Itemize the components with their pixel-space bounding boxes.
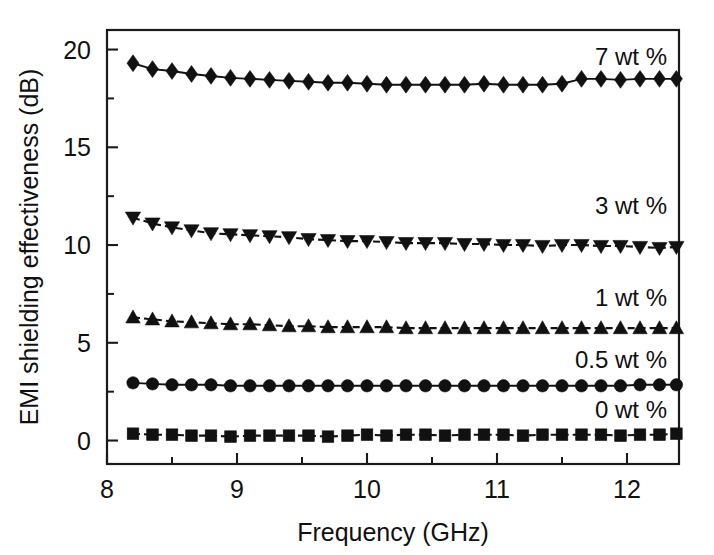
data-point-marker-diamond xyxy=(186,66,198,83)
x-tick-label: 9 xyxy=(230,475,244,503)
series-0-5-wt xyxy=(127,377,683,392)
data-point-marker-circle xyxy=(478,380,490,392)
figure-container: 05101520 89101112 7 wt %3 wt %1 wt %0.5 … xyxy=(0,0,714,555)
y-axis-tick-labels: 05101520 xyxy=(63,36,91,455)
data-point-marker-diamond xyxy=(556,75,568,92)
y-tick-label: 0 xyxy=(77,427,91,455)
data-point-marker-square xyxy=(595,429,607,441)
data-point-marker-square xyxy=(439,430,451,442)
series-label-7-wt: 7 wt % xyxy=(595,43,667,70)
data-point-marker-diamond xyxy=(400,76,412,93)
data-point-marker-square xyxy=(264,430,276,442)
data-point-marker-circle xyxy=(634,379,646,391)
data-point-marker-triangle-up xyxy=(360,320,374,333)
y-tick-label: 5 xyxy=(77,329,91,357)
data-point-marker-circle xyxy=(244,380,256,392)
data-point-marker-diamond xyxy=(537,76,549,93)
data-point-marker-diamond xyxy=(264,71,276,88)
y-axis-ticks xyxy=(107,50,118,441)
data-point-marker-triangle-down xyxy=(652,242,667,255)
data-point-marker-triangle-up xyxy=(126,310,140,323)
data-point-marker-triangle-up xyxy=(262,318,276,331)
data-point-marker-square xyxy=(671,428,683,440)
data-point-marker-circle xyxy=(419,380,431,392)
y-tick-label: 15 xyxy=(63,133,91,161)
x-tick-label: 12 xyxy=(613,475,641,503)
data-point-marker-diamond xyxy=(205,68,217,85)
data-point-marker-diamond xyxy=(576,70,588,87)
data-point-marker-diamond xyxy=(439,76,451,93)
data-point-marker-triangle-down xyxy=(359,236,374,249)
data-point-marker-square xyxy=(498,429,510,441)
data-point-marker-triangle-up xyxy=(438,321,452,334)
data-point-marker-diamond xyxy=(283,72,295,89)
data-point-marker-triangle-down xyxy=(203,228,218,241)
data-point-marker-circle xyxy=(458,380,470,392)
data-point-marker-square xyxy=(322,431,334,443)
data-point-marker-diamond xyxy=(225,69,237,86)
data-point-marker-diamond xyxy=(459,76,471,93)
data-point-marker-circle xyxy=(263,380,275,392)
data-point-marker-square xyxy=(205,430,217,442)
x-tick-label: 8 xyxy=(100,475,114,503)
data-point-marker-diamond xyxy=(478,75,490,92)
x-axis-title: Frequency (GHz) xyxy=(297,518,489,546)
data-point-marker-circle xyxy=(439,380,451,392)
plot-frame xyxy=(107,30,679,464)
x-tick-label: 10 xyxy=(353,475,381,503)
data-point-marker-diamond xyxy=(670,70,682,87)
series-label-0-wt: 0 wt % xyxy=(595,396,667,423)
data-point-marker-diamond xyxy=(342,74,354,91)
data-point-marker-square xyxy=(303,430,315,442)
data-point-marker-diamond xyxy=(361,75,373,92)
data-point-marker-circle xyxy=(127,377,139,389)
data-point-marker-circle xyxy=(556,380,568,392)
data-point-marker-circle xyxy=(224,380,236,392)
data-point-marker-square xyxy=(517,430,529,442)
data-point-marker-square xyxy=(537,429,549,441)
data-point-marker-circle xyxy=(380,380,392,392)
data-point-marker-triangle-down xyxy=(457,238,472,251)
series-0-wt xyxy=(127,428,682,443)
data-point-marker-diamond xyxy=(244,70,256,87)
data-point-marker-triangle-down xyxy=(535,240,550,253)
series-label-1-wt: 1 wt % xyxy=(595,284,667,311)
data-point-marker-circle xyxy=(283,380,295,392)
data-point-marker-square xyxy=(361,429,373,441)
data-point-marker-diamond xyxy=(498,76,510,93)
data-point-marker-square xyxy=(400,429,412,441)
data-point-marker-square xyxy=(420,429,432,441)
data-point-marker-square xyxy=(127,428,139,440)
data-point-marker-diamond xyxy=(127,55,139,72)
data-point-marker-circle xyxy=(322,380,334,392)
data-point-marker-triangle-down xyxy=(379,237,394,250)
data-point-marker-triangle-down xyxy=(632,241,647,254)
data-point-marker-circle xyxy=(146,378,158,390)
data-point-marker-square xyxy=(186,430,198,442)
data-point-marker-square xyxy=(225,431,237,443)
data-series-layer xyxy=(125,55,684,443)
data-point-marker-square xyxy=(147,429,159,441)
data-point-marker-diamond xyxy=(517,76,529,93)
y-axis-title: EMI shielding effectiveness (dB) xyxy=(15,69,43,426)
data-point-marker-square xyxy=(556,429,568,441)
data-point-marker-circle xyxy=(361,380,373,392)
emi-shielding-line-chart: 05101520 89101112 7 wt %3 wt %1 wt %0.5 … xyxy=(0,0,714,555)
data-point-marker-square xyxy=(576,429,588,441)
data-point-marker-circle xyxy=(653,379,665,391)
data-point-marker-triangle-down xyxy=(554,239,569,252)
y-tick-label: 10 xyxy=(63,231,91,259)
data-point-marker-circle xyxy=(670,379,682,391)
data-point-marker-triangle-down xyxy=(184,225,199,238)
x-axis-tick-labels: 89101112 xyxy=(100,475,641,503)
data-point-marker-triangle-up xyxy=(535,321,549,334)
data-point-marker-circle xyxy=(575,380,587,392)
series-label-3-wt: 3 wt % xyxy=(595,192,667,219)
data-point-marker-circle xyxy=(185,379,197,391)
data-point-marker-triangle-up xyxy=(184,315,198,328)
data-point-marker-circle xyxy=(400,380,412,392)
data-point-marker-diamond xyxy=(303,73,315,90)
data-point-marker-triangle-up xyxy=(669,321,683,334)
data-point-marker-diamond xyxy=(634,70,646,87)
data-point-marker-circle xyxy=(341,380,353,392)
